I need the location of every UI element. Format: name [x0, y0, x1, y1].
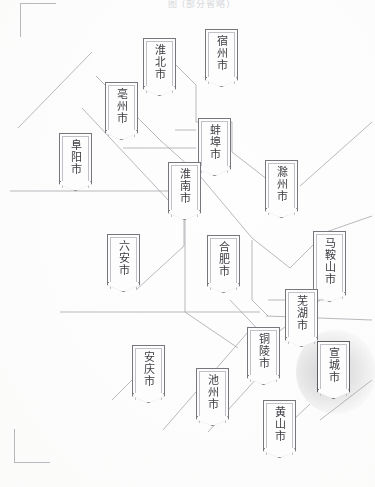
- city-banner-wuhu[interactable]: 芜湖市: [285, 289, 318, 337]
- city-banner-chizhou[interactable]: 池州市: [196, 368, 229, 416]
- city-name-label: 芜湖市: [295, 295, 308, 331]
- city-banner-tongling[interactable]: 铜陵市: [247, 327, 280, 375]
- city-banner-huainan[interactable]: 淮南市: [168, 162, 201, 210]
- boundary-line: [252, 238, 290, 268]
- boundary-line: [326, 216, 372, 232]
- city-name-label: 安庆市: [142, 351, 155, 387]
- boundary-line: [185, 312, 238, 348]
- city-name-label: 淮南市: [178, 168, 191, 204]
- city-name-label: 黄山市: [273, 406, 286, 442]
- boundary-line: [252, 300, 268, 316]
- city-banner-chuzhou[interactable]: 滁州市: [265, 160, 298, 208]
- city-name-label: 六安市: [117, 240, 130, 276]
- city-banner-suzhou[interactable]: 宿州市: [205, 29, 238, 77]
- city-name-label: 铜陵市: [257, 333, 270, 369]
- city-name-label: 阜阳市: [69, 139, 82, 175]
- boundary-line: [232, 152, 268, 180]
- city-banner-xuancheng[interactable]: 宣城市: [317, 341, 350, 389]
- city-banner-luan[interactable]: 六安市: [107, 234, 140, 282]
- city-banner-huangshan[interactable]: 黄山市: [263, 400, 296, 448]
- city-name-label: 马鞍山市: [323, 237, 336, 285]
- city-banner-bozhou[interactable]: 亳州市: [105, 82, 138, 130]
- city-banner-hefei[interactable]: 合肥市: [207, 235, 240, 283]
- boundary-line: [18, 52, 92, 128]
- boundary-line: [266, 316, 372, 320]
- city-name-label: 滁州市: [275, 166, 288, 202]
- city-banner-bengbu[interactable]: 蚌埠市: [198, 118, 231, 166]
- city-name-label: 蚌埠市: [208, 124, 221, 160]
- city-banner-fuyang[interactable]: 阜阳市: [59, 133, 92, 181]
- boundary-line: [112, 380, 132, 400]
- city-name-label: 淮北市: [153, 44, 166, 80]
- city-name-label: 宿州市: [215, 35, 228, 71]
- city-name-label: 池州市: [206, 374, 219, 410]
- city-name-label: 亳州市: [115, 88, 128, 124]
- boundary-line: [200, 176, 252, 238]
- city-banner-huaibei[interactable]: 淮北市: [143, 38, 176, 86]
- boundary-line: [136, 246, 184, 290]
- scanned-map-page: 图 (部分省略) 淮北市宿州市亳州市蚌埠市阜阳市淮南市滁州市六安市合肥市马鞍山市…: [0, 0, 375, 487]
- city-banner-anqing[interactable]: 安庆市: [132, 345, 165, 393]
- city-banner-maanshan[interactable]: 马鞍山市: [313, 231, 346, 292]
- city-name-label: 宣城市: [327, 347, 340, 383]
- boundary-line: [300, 122, 372, 186]
- city-name-label: 合肥市: [217, 241, 230, 277]
